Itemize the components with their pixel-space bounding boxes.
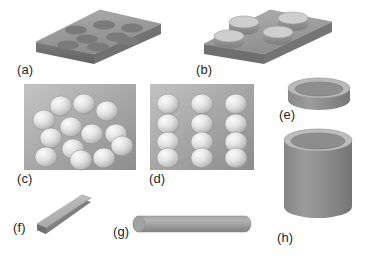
sphere-c [40, 128, 62, 148]
plate-a-hole [57, 40, 79, 49]
sphere-group-d [157, 94, 247, 168]
panel-a-perforated-plate [28, 4, 168, 66]
panel-g-graphic [133, 212, 253, 238]
panel-h-graphic [280, 126, 356, 228]
sphere-c [60, 117, 82, 137]
panel-label-e: (e) [279, 108, 295, 121]
panel-d-ordered-spheres [150, 84, 254, 170]
panel-label-a: (a) [17, 63, 33, 76]
sphere-d [157, 148, 179, 168]
rod-g-body [133, 216, 251, 232]
sphere-c [81, 124, 103, 144]
sphere-c [70, 150, 92, 170]
panel-c-random-spheres [24, 84, 136, 170]
panel-label-b: (b) [196, 63, 212, 76]
plate-a-hole [121, 23, 143, 32]
plate-a-hole [76, 34, 98, 43]
sphere-c [73, 94, 95, 114]
tube-h-wall [284, 140, 352, 218]
panel-f-flat-strip [32, 196, 104, 244]
panel-label-h: (h) [277, 231, 293, 244]
sphere-d [225, 94, 247, 114]
sphere-c [111, 136, 133, 156]
sphere-d [191, 148, 213, 168]
plate-a-hole [93, 20, 115, 29]
panel-g-solid-rod [133, 212, 253, 238]
tube-h-bore [291, 133, 345, 149]
panel-label-g: (g) [113, 225, 129, 238]
sphere-c [93, 148, 115, 168]
sphere-d [191, 94, 213, 114]
panel-label-c: (c) [17, 172, 32, 185]
panel-f-graphic [32, 196, 104, 244]
ring-e-bore [295, 82, 343, 96]
panel-b-plate-with-discs [196, 4, 341, 66]
sphere-c [96, 101, 118, 121]
sphere-c [35, 147, 57, 167]
panel-b-graphic [196, 4, 341, 66]
plate-a-hole [117, 36, 139, 45]
plate-a-hole [87, 42, 109, 51]
sphere-d [225, 148, 247, 168]
figure-canvas: (a) [0, 0, 370, 260]
sphere-c [50, 96, 72, 116]
panel-d-graphic [150, 84, 254, 170]
plate-a-hole [65, 25, 87, 34]
sphere-c [33, 110, 55, 130]
panel-h-tall-hollow-cylinder [280, 126, 356, 228]
panel-label-f: (f) [13, 221, 26, 234]
panel-c-graphic [24, 84, 136, 170]
rod-g-end-cap [133, 216, 145, 232]
plate-b-disc [263, 26, 293, 45]
sphere-d [191, 114, 213, 134]
sphere-d [225, 114, 247, 134]
plate-b-disc [214, 30, 244, 49]
panel-label-d: (d) [149, 172, 165, 185]
sphere-d [157, 114, 179, 134]
sphere-d [157, 94, 179, 114]
strip-f-top-face [37, 195, 91, 228]
panel-a-graphic [28, 4, 168, 66]
